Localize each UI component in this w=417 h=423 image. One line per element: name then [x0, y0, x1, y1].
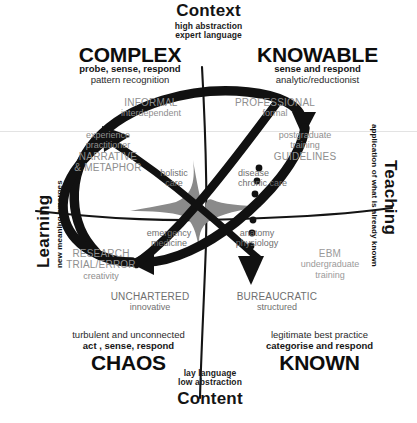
annotation-holistic-care: holistic care: [140, 168, 208, 189]
annotation-research: RESEARCH TRIAL/ERROR creativity: [40, 248, 162, 281]
annotation-informal-sub: interdependent: [96, 108, 206, 118]
diagram-canvas: Context high abstraction expert language…: [0, 0, 417, 423]
annotation-narrative-line1: experience: [48, 130, 168, 140]
domain-complex-action: probe, sense, respond: [50, 64, 210, 74]
annotation-unchartered-caps: UNCHARTERED: [95, 291, 205, 302]
annotation-ebm-caps: EBM: [285, 248, 375, 259]
annotation-bureaucratic-caps: BUREAUCRATIC: [222, 291, 332, 302]
axis-right-subtitle-text: application of what is already known: [370, 124, 379, 267]
annotation-research-caps1: RESEARCH: [40, 248, 162, 259]
domain-chaos-action: act , sense, respond: [36, 341, 221, 351]
annotation-narrative-caps1: NARRATIVE: [48, 151, 168, 162]
axis-bottom-line2: low abstraction: [130, 378, 290, 387]
annotation-ebm: EBM undergraduate training: [285, 248, 375, 280]
annotation-guidelines-line1: postgraduate: [245, 130, 365, 140]
horizontal-axis-line: [36, 208, 392, 220]
annotation-informal-caps: INFORMAL: [96, 97, 206, 108]
annotation-ebm-line2: training: [285, 270, 375, 280]
axis-right-subtitle: application of what is already known: [368, 124, 386, 267]
annotation-emergency-line2: medicine: [128, 238, 210, 248]
annotation-narrative-line2: practitioner: [48, 140, 168, 150]
annotation-research-sub: creativity: [40, 271, 162, 281]
annotation-professional: PROFESSIONAL formal: [216, 97, 334, 119]
domain-chaos-name: CHAOS: [36, 352, 221, 374]
axis-bottom-title: Content: [130, 390, 290, 408]
annotation-guidelines-caps: GUIDELINES: [245, 151, 365, 162]
annotation-emergency-line1: emergency: [128, 228, 210, 238]
domain-known-name: KNOWN: [232, 352, 407, 374]
domain-known-note: legitimate best practice: [232, 330, 407, 340]
annotation-chronic-line1: disease: [238, 168, 322, 178]
annotation-unchartered-sub: innovative: [95, 302, 205, 312]
domain-knowable-note: analytic/reductionist: [235, 75, 400, 85]
annotation-guidelines: postgraduate training GUIDELINES: [245, 130, 365, 162]
annotation-bureaucratic-sub: structured: [222, 302, 332, 312]
annotation-holistic-line2: care: [140, 178, 208, 188]
annotation-unchartered: UNCHARTERED innovative: [95, 291, 205, 313]
annotation-holistic-line1: holistic: [140, 168, 208, 178]
annotation-professional-sub: formal: [216, 108, 334, 118]
domain-chaos-note: turbulent and unconnected: [36, 330, 221, 340]
annotation-anatomy-physiology: anatomy physiology: [216, 228, 298, 249]
annotation-ebm-line1: undergraduate: [285, 259, 375, 269]
axis-top-line2: expert language: [0, 31, 417, 40]
annotation-research-caps2: TRIAL/ERROR: [40, 259, 162, 270]
annotation-informal: INFORMAL interdependent: [96, 97, 206, 119]
annotation-professional-caps: PROFESSIONAL: [216, 97, 334, 108]
annotation-narrative: experience practitioner NARRATIVE & META…: [48, 130, 168, 173]
annotation-emergency-medicine: emergency medicine: [128, 228, 210, 249]
axis-top-title: Context: [0, 2, 417, 20]
domain-knowable-action: sense and respond: [235, 64, 400, 74]
domain-known-action: categorise and respond: [232, 341, 407, 351]
annotation-bureaucratic: BUREAUCRATIC structured: [222, 291, 332, 313]
annotation-anatomy-line2: physiology: [216, 238, 298, 248]
annotation-guidelines-line2: training: [245, 140, 365, 150]
domain-complex-note: pattern recognition: [50, 75, 210, 85]
annotation-chronic-line2: chronic care: [238, 178, 322, 188]
annotation-anatomy-line1: anatomy: [216, 228, 298, 238]
annotation-chronic-care: disease chronic care: [238, 168, 322, 189]
